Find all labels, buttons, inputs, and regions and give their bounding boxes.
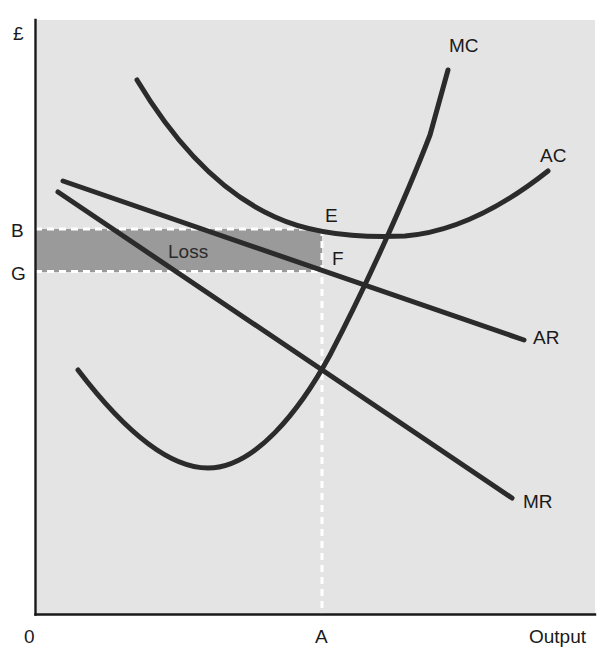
y-tick-label-g: G (11, 263, 26, 284)
mc-curve-label: MC (449, 35, 479, 56)
ar-curve-label: AR (533, 327, 559, 348)
point-label-f: F (332, 248, 344, 269)
loss-area-label: Loss (168, 241, 208, 262)
y-tick-label-b: B (11, 220, 24, 241)
point-label-e: E (325, 205, 338, 226)
x-axis-label: Output (529, 626, 587, 647)
ac-curve-label: AC (540, 145, 566, 166)
loss-making-firm-diagram: £ B G 0 A Output MC AC AR MR E F Loss (0, 0, 612, 661)
plot-background (35, 20, 595, 614)
y-axis-label: £ (13, 23, 24, 44)
x-tick-label-a: A (315, 626, 328, 647)
origin-label: 0 (24, 626, 35, 647)
mr-curve-label: MR (523, 491, 553, 512)
